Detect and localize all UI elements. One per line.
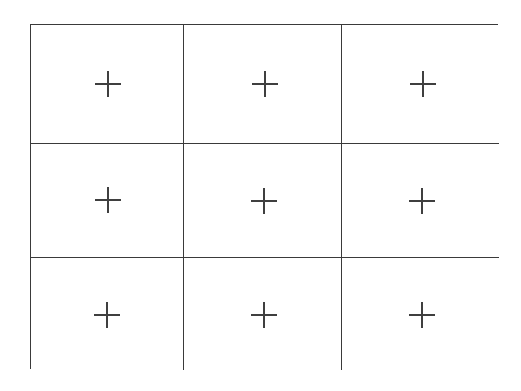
crosshair-vertical-bar <box>421 302 423 328</box>
figure-canvas: cell-r1-c1 cell-r1-c2 cell-r1-c3 cell-r2… <box>0 0 521 391</box>
crosshair-plus-icon <box>409 302 435 328</box>
cell-id-label: cell-r1-c3 <box>342 25 343 26</box>
crosshair-vertical-bar <box>263 302 265 328</box>
crosshair-vertical-bar <box>264 71 266 97</box>
grid-cell[interactable]: cell-r2-c1 <box>31 144 184 258</box>
grid-cell[interactable]: cell-r3-c1 <box>31 258 184 370</box>
crosshair-vertical-bar <box>421 188 423 214</box>
cell-id-label: cell-r2-c2 <box>184 144 185 145</box>
grid-cell[interactable]: cell-r1-c2 <box>184 25 342 144</box>
crosshair-vertical-bar <box>107 71 109 97</box>
cell-id-label: cell-r3-c3 <box>342 258 343 259</box>
crosshair-plus-icon <box>251 188 277 214</box>
crosshair-vertical-bar <box>107 187 109 213</box>
grid-cell[interactable]: cell-r3-c2 <box>184 258 342 370</box>
crosshair-plus-icon <box>95 71 121 97</box>
crosshair-vertical-bar <box>106 302 108 328</box>
grid-cell[interactable]: cell-r1-c1 <box>31 25 184 144</box>
crosshair-plus-icon <box>410 71 436 97</box>
crosshair-plus-icon <box>409 188 435 214</box>
crosshair-plus-icon <box>95 187 121 213</box>
crosshair-grid: cell-r1-c1 cell-r1-c2 cell-r1-c3 cell-r2… <box>30 24 498 369</box>
crosshair-plus-icon <box>94 302 120 328</box>
grid-cell[interactable]: cell-r3-c3 <box>342 258 499 370</box>
cell-id-label: cell-r3-c2 <box>184 258 185 259</box>
cell-id-label: cell-r3-c1 <box>31 258 32 259</box>
cell-id-label: cell-r2-c1 <box>31 144 32 145</box>
crosshair-plus-icon <box>251 302 277 328</box>
grid-cell[interactable]: cell-r1-c3 <box>342 25 499 144</box>
cell-id-label: cell-r1-c1 <box>31 25 32 26</box>
cell-id-label: cell-r1-c2 <box>184 25 185 26</box>
crosshair-plus-icon <box>252 71 278 97</box>
crosshair-vertical-bar <box>422 71 424 97</box>
grid-cell[interactable]: cell-r2-c3 <box>342 144 499 258</box>
crosshair-vertical-bar <box>263 188 265 214</box>
grid-cell[interactable]: cell-r2-c2 <box>184 144 342 258</box>
cell-id-label: cell-r2-c3 <box>342 144 343 145</box>
